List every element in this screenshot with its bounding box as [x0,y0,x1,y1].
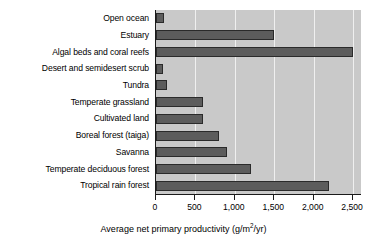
bar-row [156,10,361,27]
category-label: Algal beds and coral reefs [0,43,152,60]
bar-row [156,161,361,178]
category-label: Tropical rain forest [0,177,152,194]
bar [156,147,227,157]
x-tick-label: 1,000 [223,202,245,212]
x-axis-tick-labels: 05001,0001,5002,0002,500 [0,202,367,214]
bar [156,131,219,141]
x-tick-label: 0 [153,202,158,212]
bar [156,47,353,57]
bar [156,13,164,23]
category-axis-labels: Open oceanEstuaryAlgal beds and coral re… [0,10,152,194]
category-label: Open ocean [0,10,152,27]
bar [156,64,163,74]
x-tick [155,195,156,200]
x-tick [352,195,353,200]
chart-figure: Open oceanEstuaryAlgal beds and coral re… [0,0,367,244]
x-tick [313,195,314,200]
bar-row [156,177,361,194]
category-label: Tundra [0,77,152,94]
x-tick [234,195,235,200]
bar [156,97,203,107]
bar-row [156,43,361,60]
x-tick [194,195,195,200]
bar-row [156,94,361,111]
x-axis-title: Average net primary productivity (g/m2/y… [0,224,367,234]
category-label: Cultivated land [0,110,152,127]
category-label: Desert and semidesert scrub [0,60,152,77]
x-tick [273,195,274,200]
bar-row [156,27,361,44]
x-axis-ticks [155,195,361,201]
x-tick-label: 1,500 [263,202,285,212]
category-label: Temperate grassland [0,94,152,111]
bar-row [156,127,361,144]
x-tick-label: 500 [187,202,201,212]
category-label: Estuary [0,27,152,44]
bar [156,181,329,191]
x-axis-title-exponent: 2 [250,222,254,229]
plot-area [155,10,361,195]
category-label: Temperate deciduous forest [0,161,152,178]
bar [156,80,167,90]
category-label: Savanna [0,144,152,161]
bar-row [156,144,361,161]
bar-series [156,10,361,194]
bar-row [156,110,361,127]
x-tick-label: 2,000 [302,202,324,212]
bar [156,164,251,174]
bar [156,30,274,40]
category-label: Boreal forest (taiga) [0,127,152,144]
bar [156,114,203,124]
bar-row [156,60,361,77]
bar-row [156,77,361,94]
x-tick-label: 2,500 [341,202,363,212]
